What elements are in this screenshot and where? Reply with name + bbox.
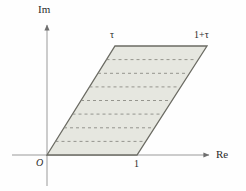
point-tau-label: τ [110,30,114,40]
complex-plane-figure: Im Re O 1 τ 1+τ [0,0,246,191]
point-one-plus-tau-label: 1+τ [194,30,209,40]
imaginary-axis-label: Im [38,4,50,15]
real-axis-label: Re [216,149,228,160]
origin-label: O [36,158,43,168]
point-one-label: 1 [134,159,139,169]
fundamental-parallelogram [47,46,207,155]
